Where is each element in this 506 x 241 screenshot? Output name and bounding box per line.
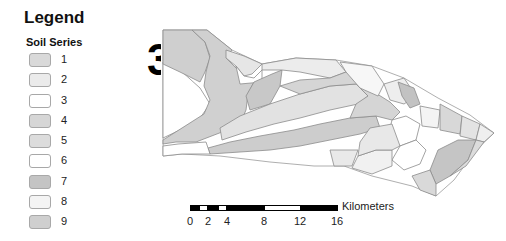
scale-tick: 8: [261, 215, 267, 227]
scale-segment: [218, 205, 227, 211]
scale-segment: [264, 205, 301, 211]
scale-tick: 16: [331, 215, 343, 227]
scale-segment: [301, 205, 338, 211]
scale-segment: [199, 205, 208, 211]
scale-tick: 4: [224, 215, 230, 227]
scale-tick: 2: [205, 215, 211, 227]
scale-segment: [190, 205, 199, 211]
scale-segment: [227, 205, 264, 211]
scale-segment: [208, 205, 218, 211]
scale-tick: 12: [294, 215, 306, 227]
scale-unit-label: Kilometers: [342, 200, 394, 212]
scale-tick: 0: [187, 215, 193, 227]
